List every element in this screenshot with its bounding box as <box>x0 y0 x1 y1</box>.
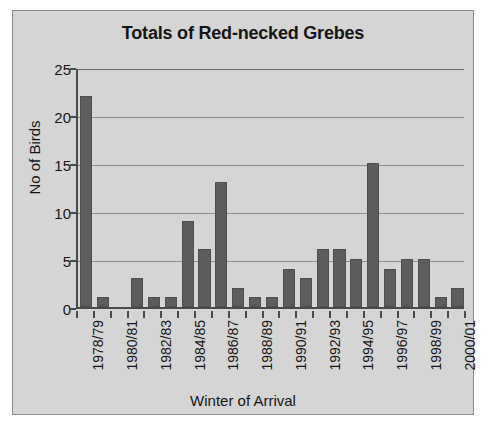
x-tick-label-1986-87: 1986/87 <box>225 320 241 371</box>
bar-slot <box>449 69 466 307</box>
bar-slot <box>331 69 348 307</box>
bar <box>215 182 227 307</box>
bar <box>300 278 312 307</box>
x-tick-mark <box>464 311 466 318</box>
x-tick-mark <box>363 311 365 318</box>
bar <box>249 297 261 307</box>
x-tick-mark <box>447 311 449 318</box>
bar-slot <box>179 69 196 307</box>
bar-slot <box>196 69 213 307</box>
x-tick-mark <box>110 311 112 318</box>
bar-slot <box>264 69 281 307</box>
bar-slot <box>213 69 230 307</box>
x-tick-label-1984-85: 1984/85 <box>192 320 208 371</box>
y-tick-label-15: 15 <box>54 157 71 174</box>
x-tick-mark <box>245 311 247 318</box>
y-tick-label-20: 20 <box>54 109 71 126</box>
bar <box>165 297 177 307</box>
x-tick-mark <box>329 311 331 318</box>
x-tick-mark <box>413 311 415 318</box>
bar-slot <box>78 69 95 307</box>
bar-slot <box>399 69 416 307</box>
x-tick-mark <box>143 311 145 318</box>
bar-slot <box>348 69 365 307</box>
x-tick-mark <box>278 311 280 318</box>
bar <box>333 249 345 307</box>
bar <box>384 269 396 307</box>
bar-slot <box>112 69 129 307</box>
y-tick-label-10: 10 <box>54 205 71 222</box>
x-tick-label-1998-99: 1998/99 <box>428 320 444 371</box>
bar-slot <box>432 69 449 307</box>
bar <box>182 221 194 307</box>
bar <box>148 297 160 307</box>
bar-slot <box>280 69 297 307</box>
bar-slot <box>145 69 162 307</box>
bar <box>451 288 463 307</box>
chart-screenshot: Totals of Red-necked Grebes No of Birds … <box>0 0 486 425</box>
x-axis-tick-marks <box>76 311 464 318</box>
bar <box>283 269 295 307</box>
bar <box>97 297 109 307</box>
x-tick-label-1980-81: 1980/81 <box>124 320 140 371</box>
bar-slot <box>382 69 399 307</box>
x-tick-mark <box>228 311 230 318</box>
x-tick-label-1990-91: 1990/91 <box>293 320 309 371</box>
x-tick-mark <box>93 311 95 318</box>
x-tick-label-2000-01: 2000/01 <box>462 320 478 371</box>
bar <box>418 259 430 307</box>
x-axis-title: Winter of Arrival <box>13 392 473 409</box>
x-tick-label-1988-89: 1988/89 <box>259 320 275 371</box>
y-tick-label-25: 25 <box>54 61 71 78</box>
x-tick-mark <box>380 311 382 318</box>
x-tick-mark <box>76 311 78 318</box>
x-tick-label-1982-83: 1982/83 <box>158 320 174 371</box>
bar-slot <box>230 69 247 307</box>
bar-series <box>78 69 464 307</box>
x-tick-mark <box>262 311 264 318</box>
x-tick-mark <box>177 311 179 318</box>
bar <box>131 278 143 307</box>
plot-area <box>76 69 464 309</box>
chart-frame: Totals of Red-necked Grebes No of Birds … <box>12 10 474 415</box>
bar-slot <box>95 69 112 307</box>
x-tick-label-1996-97: 1996/97 <box>394 320 410 371</box>
bar-slot <box>247 69 264 307</box>
y-axis-tick-labels: 0510152025 <box>33 69 71 309</box>
bar-slot <box>415 69 432 307</box>
bar <box>266 297 278 307</box>
x-tick-mark <box>194 311 196 318</box>
bar <box>367 163 379 307</box>
bar <box>317 249 329 307</box>
x-tick-label-1978-79: 1978/79 <box>90 320 106 371</box>
bar-slot <box>129 69 146 307</box>
chart-title: Totals of Red-necked Grebes <box>13 23 473 44</box>
x-tick-mark <box>312 311 314 318</box>
x-tick-mark <box>211 311 213 318</box>
x-tick-mark <box>397 311 399 318</box>
x-axis-tick-labels: 1978/791980/811982/831984/851986/871988/… <box>76 320 464 392</box>
x-tick-label-1994-95: 1994/95 <box>360 320 376 371</box>
bar <box>435 297 447 307</box>
bar <box>401 259 413 307</box>
x-tick-mark <box>430 311 432 318</box>
bar <box>350 259 362 307</box>
bar <box>80 96 92 307</box>
bar <box>198 249 210 307</box>
x-tick-mark <box>346 311 348 318</box>
x-tick-mark <box>160 311 162 318</box>
x-tick-mark <box>127 311 129 318</box>
bar-slot <box>162 69 179 307</box>
x-tick-mark <box>295 311 297 318</box>
bar-slot <box>297 69 314 307</box>
bar-slot <box>365 69 382 307</box>
bar <box>232 288 244 307</box>
x-tick-label-1992-93: 1992/93 <box>327 320 343 371</box>
bar-slot <box>314 69 331 307</box>
